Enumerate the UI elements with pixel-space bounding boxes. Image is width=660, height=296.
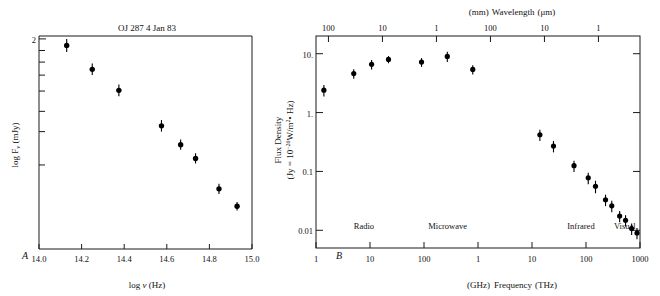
panel-b-y-tick-1: 1. xyxy=(307,109,313,119)
panel-b-label: B xyxy=(336,250,342,261)
panel-b-top-tick-3: 100 xyxy=(484,23,497,33)
figure-container: OJ 287 4 Jan 83 A 14.014.214.414.614.815… xyxy=(0,0,660,296)
panel-b-bottom-tick-3: 1 xyxy=(476,254,480,264)
panel-a-y-tick-labels: 2 xyxy=(32,35,36,45)
panel-a-x-tick-15.0: 15.0 xyxy=(245,254,260,264)
panel-b-top-tick-2: 1 xyxy=(434,23,438,33)
band-label-radio: Radio xyxy=(354,221,374,231)
panel-b-top-tick-4: 10 xyxy=(540,23,549,33)
band-label-infrared: Infrared xyxy=(567,221,595,231)
panel-a-x-tick-14.8: 14.8 xyxy=(202,254,217,264)
panel-b-y-axis-label-line1: Flux Density xyxy=(273,116,283,163)
panel-b-y-tick-3: 0.01 xyxy=(298,226,313,236)
panel-b-bottom-tick-0: 1 xyxy=(314,254,318,264)
panel-a-x-tick-14.2: 14.2 xyxy=(74,254,89,264)
panel-b-top-tick-1: 10 xyxy=(378,23,387,33)
panel-a-x-tick-14.6: 14.6 xyxy=(159,254,174,264)
panel-a-x-axis-label: log ν (Hz) xyxy=(129,280,166,290)
panel-b-y-tick-0: 10. xyxy=(302,50,313,60)
panel-b-bottom-tick-2: 100 xyxy=(418,254,431,264)
panel-a-x-tick-14.4: 14.4 xyxy=(117,254,133,264)
figure-svg: OJ 287 4 Jan 83 A 14.014.214.414.614.815… xyxy=(0,0,660,296)
panel-b-bottom-tick-6: 1000 xyxy=(632,254,649,264)
panel-a-title: OJ 287 4 Jan 83 xyxy=(118,23,176,33)
panel-a-x-tick-14.0: 14.0 xyxy=(32,254,47,264)
panel-b-y-tick-2: 0.1 xyxy=(302,167,313,177)
panel-b-bottom-tick-5: 100 xyxy=(580,254,593,264)
panel-b-top-axis-label: (mm)Wavelength(μm) xyxy=(469,7,556,17)
panel-b-y-axis-label-line2: (Jy = 10−26W/m2• Hz) xyxy=(285,101,295,180)
panel-b-bottom-axis-label: (GHz)Frequency(THz) xyxy=(467,280,557,290)
panel-b-bottom-tick-4: 10 xyxy=(528,254,537,264)
panel-b-top-tick-5: 1 xyxy=(596,23,600,33)
panel-b-top-tick-0: 100 xyxy=(322,23,335,33)
figure-background xyxy=(0,0,660,296)
panel-b-bottom-tick-1: 10 xyxy=(366,254,375,264)
panel-a-label: A xyxy=(21,250,29,261)
panel-a-y-tick-2: 2 xyxy=(32,35,36,45)
band-label-microwave: Microwave xyxy=(428,221,467,231)
